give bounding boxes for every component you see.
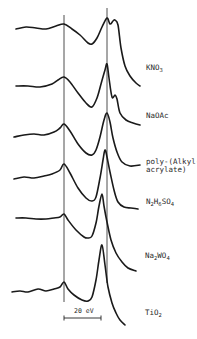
label-tio2: TiO2 (145, 309, 162, 319)
label-naoac: NaOAc (146, 112, 169, 120)
spectrum-curve-2 (14, 113, 140, 166)
label-subscript: 3 (160, 67, 163, 73)
label-text: NaOAc (146, 111, 169, 120)
label-subscript: 4 (166, 255, 169, 261)
label-subscript: 4 (171, 201, 174, 207)
spectrum-curve-5 (12, 245, 125, 325)
label-text: TiO (145, 308, 159, 317)
label-kno3: KNO3 (146, 64, 163, 74)
scale-bar (64, 316, 101, 321)
label-text-line2: acrylate) (146, 166, 197, 174)
spectrum-curve-0 (16, 18, 140, 86)
label-na2wo4: Na2WO4 (145, 252, 170, 262)
label-n2h6so4: N2H6SO4 (146, 198, 174, 208)
spectrum-curve-4 (16, 194, 136, 271)
label-subscript: 2 (159, 312, 162, 318)
label-text: Na (145, 251, 154, 260)
spectrum-curve-1 (16, 64, 140, 125)
spectra-curves (12, 18, 140, 325)
label-poly-alkyl-acrylate: poly-(Alkyl- acrylate) (146, 158, 197, 174)
scale-bar-label: 20 eV (74, 307, 94, 315)
label-text: SO (162, 197, 171, 206)
label-text: KNO (146, 63, 160, 72)
